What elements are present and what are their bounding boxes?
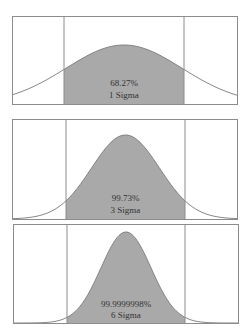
panel-3-sigma: 99.73% 3 Sigma: [12, 119, 238, 220]
sigma-label: 6 Sigma: [111, 310, 141, 320]
sigma-diagram: 68.27% 1 Sigma 99.73% 3 Sigma 99.9999998…: [0, 0, 249, 334]
percentage-label: 99.73%: [112, 193, 140, 203]
percentage-label: 99.9999998%: [101, 299, 152, 309]
sigma-label: 3 Sigma: [111, 205, 141, 215]
panel-6-sigma: 99.9999998% 6 Sigma: [13, 224, 239, 324]
sigma-label: 1 Sigma: [109, 90, 139, 100]
panel-1-sigma: 68.27% 1 Sigma: [12, 16, 238, 105]
percentage-label: 68.27%: [110, 78, 138, 88]
